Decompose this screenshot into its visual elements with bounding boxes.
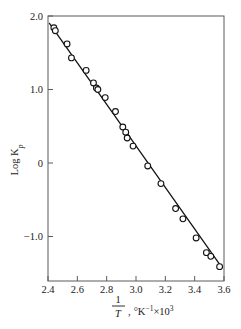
x-tick-label: 2.8	[100, 284, 113, 295]
x-tick-label: 2.4	[41, 284, 55, 295]
x-axis-tick-labels: 2.42.62.83.03.23.43.6	[41, 284, 230, 295]
x-tick-label: 3.0	[129, 284, 142, 295]
data-point	[130, 143, 136, 149]
data-point	[102, 95, 108, 101]
data-point	[158, 181, 164, 187]
y-axis-tick-labels: 2.01.00−1.0	[24, 11, 43, 243]
x-tick-label: 2.6	[71, 284, 84, 295]
data-point	[217, 264, 223, 270]
x-axis-label-group: 1 T ,°K−1×103	[112, 294, 174, 319]
scatter-plot-canvas: 2.42.62.83.03.23.43.6 2.01.00−1.0 Log Kp…	[0, 0, 241, 329]
data-point	[113, 109, 119, 115]
x-axis-units: ,°K−1×103	[128, 304, 174, 318]
y-axis-ticks	[48, 16, 53, 237]
x-tick-label: 3.6	[217, 284, 230, 295]
y-axis-label-group: Log Kp	[9, 144, 25, 175]
data-point	[173, 206, 179, 212]
x-tick-label: 3.4	[188, 284, 202, 295]
y-tick-label: −1.0	[24, 231, 43, 242]
data-point	[208, 253, 214, 259]
y-axis-label: Log Kp	[9, 144, 25, 175]
y-tick-label: 0	[38, 158, 43, 169]
y-tick-label: 1.0	[30, 84, 43, 95]
data-point	[69, 55, 75, 61]
data-point	[145, 163, 151, 169]
plot-frame	[48, 16, 224, 281]
x-tick-label: 3.2	[159, 284, 172, 295]
x-axis-fraction-denominator: T	[115, 308, 122, 319]
x-axis-ticks	[48, 276, 224, 281]
data-point	[123, 129, 129, 135]
data-point	[83, 67, 89, 73]
data-point	[95, 87, 101, 93]
y-tick-label: 2.0	[30, 11, 43, 22]
data-point	[64, 41, 70, 47]
data-point	[124, 135, 130, 141]
x-axis-fraction-numerator: 1	[115, 294, 120, 305]
data-point	[52, 28, 58, 34]
data-point	[180, 216, 186, 222]
chart-figure: 2.42.62.83.03.23.43.6 2.01.00−1.0 Log Kp…	[0, 0, 241, 329]
axes-frame-rect	[48, 16, 224, 281]
data-point	[193, 235, 199, 241]
